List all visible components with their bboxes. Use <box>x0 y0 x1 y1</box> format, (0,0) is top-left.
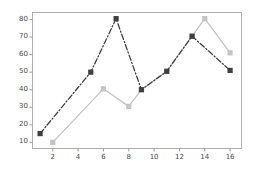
y-axis-tick-label: 80 <box>8 16 28 23</box>
chart-figure: 1020304050607080246810121416 <box>0 0 253 174</box>
x-axis-tick-label: 10 <box>144 154 164 161</box>
series-dark-dashed-marker <box>88 70 93 75</box>
series-dark-dashed-marker <box>114 16 119 21</box>
x-axis-tick-label: 2 <box>43 154 63 161</box>
y-axis-tick-label: 40 <box>8 86 28 93</box>
series-2-group <box>50 16 233 145</box>
series-light-solid-marker <box>228 50 233 55</box>
y-axis-tick-label: 20 <box>8 121 28 128</box>
y-axis-tick-label: 10 <box>8 138 28 145</box>
y-axis-tick-label: 60 <box>8 51 28 58</box>
axes-frame <box>33 13 242 149</box>
line-chart-plot <box>0 0 253 174</box>
series-light-solid-line <box>53 19 230 143</box>
series-light-solid-marker <box>202 16 207 21</box>
series-dark-dashed-line <box>40 19 230 134</box>
y-axis-tick-label: 70 <box>8 33 28 40</box>
y-axis-tick-label: 30 <box>8 103 28 110</box>
x-axis-tick-label: 16 <box>220 154 240 161</box>
x-axis-tick-label: 14 <box>195 154 215 161</box>
series-dark-dashed-marker <box>164 69 169 74</box>
x-axis-tick-label: 8 <box>119 154 139 161</box>
x-axis-tick-label: 4 <box>68 154 88 161</box>
series-dark-dashed-marker <box>38 131 43 136</box>
x-axis-tick-label: 12 <box>169 154 189 161</box>
series-1-group <box>38 16 233 136</box>
series-dark-dashed-marker <box>228 68 233 73</box>
y-axis-tick-label: 50 <box>8 68 28 75</box>
series-light-solid-marker <box>126 104 131 109</box>
series-dark-dashed-marker <box>139 87 144 92</box>
series-light-solid-marker <box>101 86 106 91</box>
x-axis-tick-label: 6 <box>93 154 113 161</box>
series-light-solid-marker <box>50 140 55 145</box>
series-dark-dashed-marker <box>190 34 195 39</box>
